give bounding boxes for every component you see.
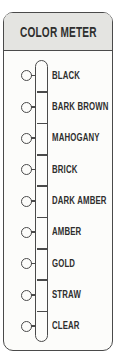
indicator-circle xyxy=(21,290,32,301)
page: COLOR METER BLACK BARK BROWN MAHOGANY BR… xyxy=(0,0,121,358)
indicator-circle xyxy=(21,196,32,207)
connector-line xyxy=(31,263,36,265)
meter-item-label: BRICK xyxy=(52,165,77,175)
meter-item-label: MAHOGANY xyxy=(52,133,100,143)
meter-item-label: GOLD xyxy=(52,259,75,269)
segment-divider xyxy=(37,217,47,219)
meter-item-label: AMBER xyxy=(52,227,81,237)
meter-row: DARK AMBER xyxy=(4,191,114,211)
meter-row: BLACK xyxy=(4,66,114,86)
meter-row: BARK BROWN xyxy=(4,97,114,117)
segment-divider xyxy=(37,248,47,250)
meter-row: AMBER xyxy=(4,222,114,242)
segment-divider xyxy=(37,154,47,156)
indicator-circle xyxy=(21,258,32,269)
indicator-circle xyxy=(21,133,32,144)
segment-divider xyxy=(37,91,47,93)
connector-line xyxy=(31,200,36,202)
connector-line xyxy=(31,231,36,233)
meter-row: BRICK xyxy=(4,160,114,180)
meter-item-label: DARK AMBER xyxy=(52,196,107,206)
indicator-circle xyxy=(21,227,32,238)
connector-line xyxy=(31,137,36,139)
indicator-circle xyxy=(21,70,32,81)
connector-line xyxy=(31,75,36,77)
segment-divider xyxy=(37,279,47,281)
segment-divider xyxy=(37,123,47,125)
connector-line xyxy=(31,325,36,327)
connector-line xyxy=(31,169,36,171)
meter-row: MAHOGANY xyxy=(4,128,114,148)
connector-line xyxy=(31,106,36,108)
meter-row: GOLD xyxy=(4,254,114,274)
meter-item-label: BARK BROWN xyxy=(52,102,109,112)
segment-divider xyxy=(37,185,47,187)
connector-line xyxy=(31,294,36,296)
meter-body: BLACK BARK BROWN MAHOGANY BRICK DARK AMB… xyxy=(4,13,112,350)
meter-row: CLEAR xyxy=(4,316,114,336)
indicator-circle xyxy=(21,102,32,113)
meter-item-label: BLACK xyxy=(52,71,80,81)
indicator-circle xyxy=(21,164,32,175)
meter-row: STRAW xyxy=(4,285,114,305)
indicator-circle xyxy=(21,321,32,332)
meter-item-label: STRAW xyxy=(52,290,81,300)
meter-item-label: CLEAR xyxy=(52,321,80,331)
color-meter-panel: COLOR METER BLACK BARK BROWN MAHOGANY BR… xyxy=(3,12,113,351)
segment-divider xyxy=(37,311,47,313)
